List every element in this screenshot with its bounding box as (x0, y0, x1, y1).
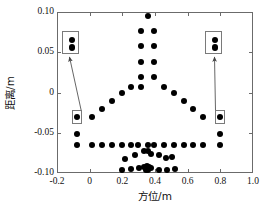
left-callout-source-box (72, 110, 82, 124)
x-tick (188, 169, 189, 173)
y-tick (57, 133, 61, 134)
x-tick-label: 0.4 (149, 177, 161, 187)
x-tick (220, 169, 221, 173)
x-tick-label: 0.8 (214, 177, 226, 187)
y-tick (249, 52, 253, 53)
data-point (119, 142, 125, 148)
x-tick-label: 0.2 (116, 177, 128, 187)
x-tick (220, 12, 221, 16)
right-callout-box (205, 31, 222, 54)
data-point (132, 152, 138, 158)
y-axis-title: 距离/m (2, 76, 17, 110)
x-tick-label: 0.6 (182, 177, 194, 187)
x-tick-label: 1.0 (247, 177, 259, 187)
data-point (181, 98, 187, 104)
y-tick (249, 133, 253, 134)
x-tick (90, 12, 91, 16)
y-tick (249, 93, 253, 94)
y-tick-label: 0.10 (37, 7, 54, 17)
x-tick-label: 0 (87, 177, 92, 187)
x-tick (188, 12, 189, 16)
x-tick (90, 169, 91, 173)
x-axis-title: 方位/m (138, 188, 172, 203)
data-point (217, 131, 223, 137)
right-callout-source-box (215, 110, 225, 124)
data-point (163, 155, 169, 161)
data-point (151, 28, 157, 34)
data-point (145, 142, 151, 148)
scatter-plot-figure: -0.200.20.40.60.81.0-0.10-0.0500.050.10 … (0, 0, 273, 206)
data-point (171, 142, 177, 148)
data-point (145, 13, 151, 19)
x-tick (122, 12, 123, 16)
data-point (119, 90, 125, 96)
data-point (171, 90, 177, 96)
data-point (151, 43, 157, 49)
data-point (135, 142, 141, 148)
data-point (161, 84, 167, 90)
data-point (99, 142, 105, 148)
data-point (148, 151, 154, 157)
data-point (119, 167, 125, 173)
data-point (138, 28, 144, 34)
left-callout-box (62, 31, 79, 54)
right-callout-magnified-point (212, 44, 219, 51)
data-point (164, 167, 170, 173)
data-point (156, 167, 162, 173)
right-callout-magnified-point (212, 37, 219, 44)
data-point (138, 59, 144, 65)
data-point (138, 84, 144, 90)
y-tick (57, 93, 61, 94)
x-tick-label: -0.2 (49, 177, 64, 187)
plot-frame (57, 12, 253, 173)
y-tick-label: -0.05 (34, 128, 54, 138)
y-tick-label: 0.05 (37, 48, 54, 58)
data-point (169, 154, 175, 160)
data-point (89, 142, 95, 148)
data-point (151, 142, 157, 148)
x-tick (155, 12, 156, 16)
data-point (161, 142, 167, 148)
y-tick-label: -0.10 (34, 168, 54, 178)
left-callout-magnified-point (69, 37, 76, 44)
left-callout-magnified-point (69, 44, 76, 51)
data-point (181, 142, 187, 148)
y-tick-label: 0 (49, 88, 54, 98)
data-point (138, 43, 144, 49)
data-point (217, 142, 223, 148)
y-tick (57, 52, 61, 53)
data-point (200, 142, 206, 148)
data-point (109, 142, 115, 148)
